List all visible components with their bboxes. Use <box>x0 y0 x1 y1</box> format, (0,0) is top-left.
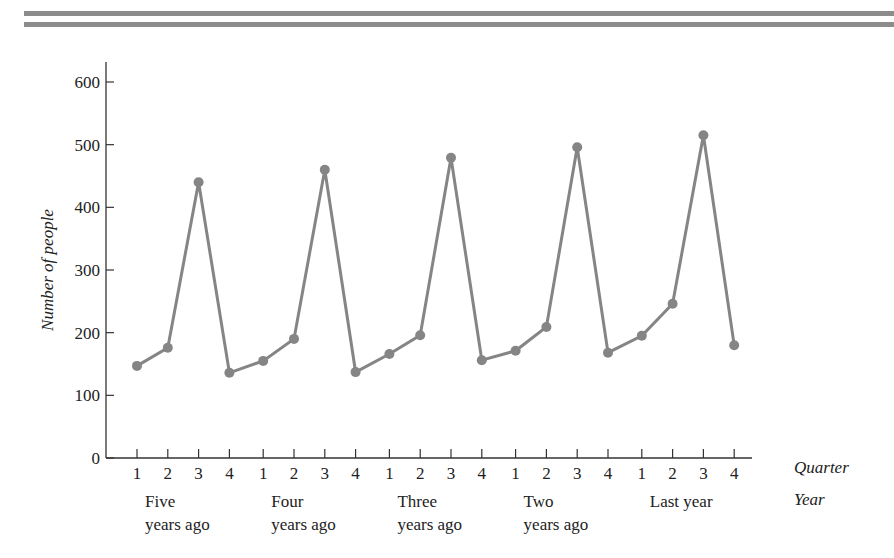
data-point <box>351 367 361 377</box>
quarter-label: 4 <box>351 464 360 483</box>
quarter-label: 1 <box>259 464 268 483</box>
year-label: Three years ago <box>397 490 462 536</box>
y-tick-label: 600 <box>75 73 101 92</box>
quarter-label: 1 <box>385 464 394 483</box>
x-axis: 12341234123412341234 <box>106 449 752 483</box>
quarter-label: 1 <box>133 464 142 483</box>
data-point <box>572 142 582 152</box>
quarter-label: 3 <box>699 464 708 483</box>
y-axis-title: Number of people <box>38 209 57 332</box>
data-point <box>511 346 521 356</box>
data-point <box>446 153 456 163</box>
quarter-label: 4 <box>604 464 613 483</box>
data-point <box>415 330 425 340</box>
quarter-label: 3 <box>573 464 582 483</box>
y-tick-label: 100 <box>75 386 101 405</box>
quarter-label: 2 <box>290 464 299 483</box>
quarter-label: 2 <box>668 464 677 483</box>
year-label: Four years ago <box>271 490 336 536</box>
data-point <box>258 356 268 366</box>
y-tick-label: 400 <box>75 198 101 217</box>
quarter-row-label: Quarter <box>794 458 849 478</box>
y-axis: 0100200300400500600 <box>75 62 115 468</box>
data-point <box>477 355 487 365</box>
data-point <box>637 331 647 341</box>
data-point <box>384 349 394 359</box>
data-point <box>132 361 142 371</box>
data-point <box>698 130 708 140</box>
quarter-label: 3 <box>194 464 203 483</box>
quarter-label: 3 <box>321 464 330 483</box>
quarter-label: 1 <box>638 464 647 483</box>
data-point <box>541 322 551 332</box>
year-label: Two years ago <box>524 490 589 536</box>
quarter-label: 2 <box>164 464 173 483</box>
data-point <box>668 299 678 309</box>
y-tick-label: 300 <box>75 261 101 280</box>
data-point <box>603 348 613 358</box>
data-point <box>729 340 739 350</box>
data-series <box>132 130 739 377</box>
line-chart: 0100200300400500600 12341234123412341234… <box>0 0 894 558</box>
quarter-label: 2 <box>542 464 551 483</box>
quarter-label: 4 <box>730 464 739 483</box>
data-point <box>320 165 330 175</box>
data-point <box>224 368 234 378</box>
year-row-label: Year <box>794 490 825 510</box>
data-point <box>289 334 299 344</box>
year-label: Last year <box>650 490 713 513</box>
quarter-label: 4 <box>478 464 487 483</box>
quarter-label: 2 <box>416 464 425 483</box>
y-tick-label: 500 <box>75 136 101 155</box>
quarter-label: 1 <box>511 464 520 483</box>
y-tick-label: 0 <box>92 449 101 468</box>
quarter-label: 3 <box>447 464 456 483</box>
data-point <box>194 177 204 187</box>
year-label: Five years ago <box>145 490 210 536</box>
data-point <box>163 343 173 353</box>
y-tick-label: 200 <box>75 324 101 343</box>
quarter-label: 4 <box>225 464 234 483</box>
